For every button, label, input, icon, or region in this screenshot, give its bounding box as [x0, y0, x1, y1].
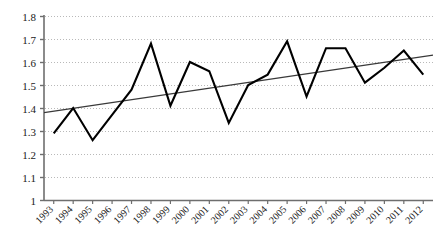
x-tick-label: 2001: [189, 204, 211, 226]
y-tick-label: 1: [31, 195, 37, 207]
y-tick-label: 1.1: [22, 172, 36, 184]
x-tick-label: 2003: [228, 204, 250, 226]
x-tick-label: 2000: [169, 204, 191, 226]
x-tick-label: 1998: [130, 204, 152, 226]
y-tick-labels: 11.11.21.31.41.51.61.71.8: [22, 11, 36, 207]
x-tick-label: 1993: [33, 204, 55, 226]
y-tick-label: 1.5: [22, 80, 36, 92]
chart-canvas: 11.11.21.31.41.51.61.71.8 19931994199519…: [0, 0, 444, 246]
x-tick-label: 2005: [267, 204, 289, 226]
y-tick-label: 1.8: [22, 11, 36, 23]
x-tick-label: 1997: [111, 204, 133, 226]
x-tick-label: 1996: [92, 204, 114, 226]
x-tick-label: 1994: [53, 204, 75, 226]
x-tick-label: 2006: [286, 204, 308, 226]
x-tick-label: 1995: [72, 204, 94, 226]
y-tick-label: 1.3: [22, 126, 36, 138]
y-tick-label: 1.7: [22, 34, 36, 46]
x-tick-labels: 1993199419951996199719981999200020012002…: [33, 204, 424, 226]
y-tick-label: 1.4: [22, 103, 36, 115]
x-tick-label: 2008: [325, 204, 347, 226]
data-series-line: [54, 41, 424, 140]
x-tick-label: 2002: [208, 204, 230, 226]
x-tick-label: 1999: [150, 204, 172, 226]
y-tick-label: 1.2: [22, 149, 36, 161]
grid-lines: [45, 17, 433, 178]
y-tick-label: 1.6: [22, 57, 36, 69]
line-chart: 11.11.21.31.41.51.61.71.8 19931994199519…: [0, 0, 444, 246]
x-tick-label: 2011: [384, 204, 406, 226]
x-tick-label: 2012: [403, 204, 425, 226]
x-tick-label: 2004: [247, 204, 269, 226]
x-tick-label: 2007: [306, 204, 328, 226]
x-tick-label: 2009: [344, 204, 366, 226]
x-tick-label: 2010: [364, 204, 386, 226]
